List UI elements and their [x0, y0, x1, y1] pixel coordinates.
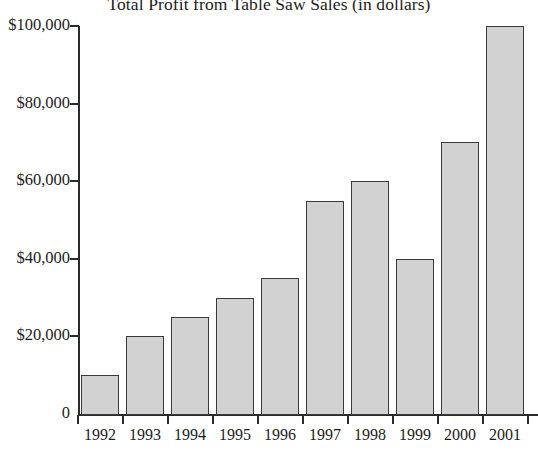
- y-axis-tick-label: $20,000: [4, 327, 70, 343]
- x-axis-tick: [392, 415, 394, 424]
- bar: [441, 142, 479, 415]
- y-axis-tick-label: $60,000: [4, 172, 70, 188]
- y-axis-tick-label-wrap: $100,000: [0, 17, 70, 33]
- bar: [306, 201, 344, 415]
- x-axis-tick: [527, 415, 529, 424]
- bar: [171, 317, 209, 415]
- y-axis-tick: [70, 335, 79, 337]
- chart-title: Total Profit from Table Saw Sales (in do…: [0, 0, 538, 14]
- x-axis-tick: [77, 415, 79, 424]
- bar: [396, 259, 434, 415]
- y-axis-tick-label: $80,000: [4, 95, 70, 111]
- x-axis-tick: [482, 415, 484, 424]
- y-axis-tick-label-wrap: $40,000: [0, 250, 70, 266]
- x-axis-tick: [347, 415, 349, 424]
- x-axis-tick: [167, 415, 169, 424]
- bar: [261, 278, 299, 415]
- y-axis-tick-label-wrap: $20,000: [0, 327, 70, 343]
- x-axis-tick: [257, 415, 259, 424]
- bar: [351, 181, 389, 415]
- y-axis-tick-label-wrap: 0: [0, 405, 70, 421]
- bar: [216, 298, 254, 415]
- y-axis-tick-label-wrap: $60,000: [0, 172, 70, 188]
- y-axis-tick: [70, 25, 79, 27]
- y-axis-tick-label: $100,000: [4, 17, 70, 33]
- y-axis-tick-label: $40,000: [4, 250, 70, 266]
- y-axis-tick: [70, 180, 79, 182]
- y-axis-tick-label-wrap: $80,000: [0, 95, 70, 111]
- bar: [126, 336, 164, 415]
- bar: [81, 375, 119, 415]
- bar: [486, 26, 524, 415]
- x-axis-tick: [212, 415, 214, 424]
- x-axis-tick-label: 2001: [479, 425, 531, 445]
- bar-chart: Total Profit from Table Saw Sales (in do…: [0, 0, 538, 454]
- y-axis-tick: [70, 258, 79, 260]
- x-axis-tick: [302, 415, 304, 424]
- x-axis-tick: [122, 415, 124, 424]
- y-axis-tick-label: 0: [4, 405, 70, 421]
- y-axis-tick: [70, 103, 79, 105]
- y-axis-line: [78, 26, 80, 415]
- x-axis-tick: [437, 415, 439, 424]
